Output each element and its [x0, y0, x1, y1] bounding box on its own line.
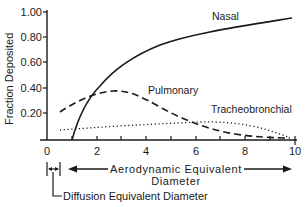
nasal-label: Nasal: [212, 10, 239, 22]
tracheobronchial-curve: [60, 122, 288, 137]
diffusion-label: Diffusion Equivalent Diameter: [63, 190, 208, 202]
diffusion-bracket: [47, 162, 62, 196]
x-tick-4: 4: [143, 145, 149, 157]
y-axis-label: Fraction Deposited: [3, 33, 15, 125]
x-tick-6: 6: [193, 145, 199, 157]
aerodynamic-label-line2: Diameter: [151, 175, 200, 187]
x-tick-8: 8: [242, 145, 248, 157]
x-tick-labels: 0 2 4 6 8 10: [44, 145, 301, 157]
pulmonary-label: Pulmonary: [148, 84, 199, 96]
tracheobronchial-label: Tracheobronchial: [211, 103, 292, 115]
x-tick-0: 0: [44, 145, 50, 157]
deposition-chart: 1.00 0.80 0.60 0.40 0.20 Fraction Deposi…: [0, 0, 306, 207]
y-tick-0.60: 0.60: [21, 56, 42, 68]
y-tick-0.20: 0.20: [21, 107, 42, 119]
nasal-curve: [72, 18, 292, 140]
x-tick-10: 10: [289, 145, 301, 157]
y-tick-0.80: 0.80: [21, 31, 42, 43]
y-tick-1.00: 1.00: [21, 6, 42, 18]
x-tick-2: 2: [94, 145, 100, 157]
aerodynamic-label-line1: Aerodynamic Equivalent: [110, 163, 242, 175]
y-tick-labels: 1.00 0.80 0.60 0.40 0.20: [21, 6, 42, 119]
y-tick-0.40: 0.40: [21, 82, 42, 94]
